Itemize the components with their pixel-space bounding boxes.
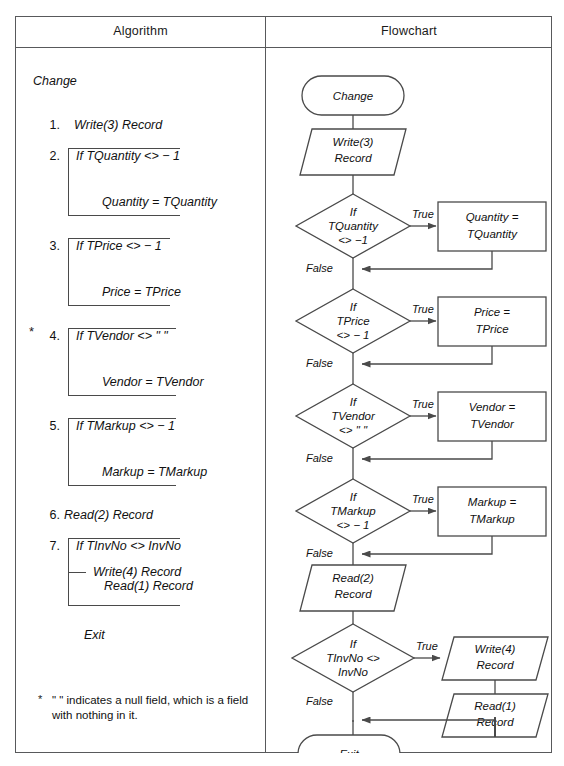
flow-node-process-quantity-line1: Quantity = bbox=[466, 211, 519, 223]
algorithm-step-2-number: 2. bbox=[42, 149, 60, 163]
algorithm-exit-label: Exit bbox=[84, 628, 105, 642]
footnote-line-1: " " indicates a null field, which is a f… bbox=[52, 694, 248, 706]
edge-label-false-markup: False bbox=[306, 547, 333, 559]
flow-node-process-quantity-line2: TQuantity bbox=[467, 228, 518, 240]
algorithm-step-1-text: Write(3) Record bbox=[74, 118, 162, 132]
algorithm-start-label: Change bbox=[33, 74, 77, 88]
flow-node-decision-quantity-line2: TQuantity bbox=[328, 220, 379, 232]
flow-node-decision-markup-line2: TMarkup bbox=[330, 505, 376, 517]
flow-node-process-price-line1: Price = bbox=[474, 306, 510, 318]
flow-node-decision-markup-line3: <> − 1 bbox=[337, 519, 370, 531]
edge-process-markup-merge bbox=[362, 536, 492, 554]
flow-node-decision-invno-line2: TInvNo <> bbox=[326, 652, 380, 664]
algorithm-step-7-number: 7. bbox=[42, 539, 60, 553]
algorithm-flowchart-table: Algorithm Flowchart Change 1. Write(3) R… bbox=[15, 16, 552, 753]
edge-label-true-markup: True bbox=[412, 493, 434, 505]
flow-node-process-markup-line2: TMarkup bbox=[469, 513, 515, 525]
algorithm-step-4-text: If TVendor <> " " bbox=[76, 329, 170, 343]
edge-process-quantity-merge bbox=[362, 251, 492, 269]
edge-label-false-quantity: False bbox=[306, 262, 333, 274]
algorithm-step-3-number: 3. bbox=[42, 239, 60, 253]
flow-node-decision-price: If TPrice <> − 1 bbox=[296, 289, 410, 353]
footnote-line-2: with nothing in it. bbox=[52, 709, 138, 721]
algorithm-step-4-number: 4. bbox=[42, 329, 60, 343]
algorithm-step-6-number: 6. bbox=[42, 508, 60, 522]
flow-node-write3-line1: Write(3) bbox=[333, 136, 374, 148]
algorithm-column: Change 1. Write(3) Record 2. If TQuantit… bbox=[16, 48, 265, 753]
flow-node-decision-invno-line3: InvNo bbox=[338, 666, 369, 678]
algorithm-step-4-body: Vendor = TVendor bbox=[102, 375, 204, 389]
footnote-star-icon: * bbox=[38, 693, 42, 705]
algorithm-step-2-body: Quantity = TQuantity bbox=[102, 195, 217, 209]
flow-node-read2-line1: Read(2) bbox=[332, 572, 374, 584]
algorithm-step-7-body: Write(4) Record bbox=[93, 565, 181, 579]
flow-node-write4: Write(4) Record bbox=[442, 637, 548, 680]
flow-node-decision-vendor-line2: TVendor bbox=[331, 410, 376, 422]
flow-node-start-label: Change bbox=[333, 90, 373, 102]
algorithm-step-6-text: Read(2) Record bbox=[64, 508, 153, 522]
algorithm-step-3-text: If TPrice <> − 1 bbox=[76, 239, 164, 253]
flow-node-write3-line2: Record bbox=[334, 152, 372, 164]
flow-node-process-vendor-line1: Vendor = bbox=[469, 401, 516, 413]
flow-node-start: Change bbox=[302, 76, 404, 115]
edge-process-vendor-merge bbox=[362, 441, 492, 459]
footnote-text: " " indicates a null field, which is a f… bbox=[52, 693, 248, 723]
algorithm-step-5-body: Markup = TMarkup bbox=[102, 465, 207, 479]
flow-node-decision-price-line3: <> − 1 bbox=[337, 329, 370, 341]
flow-node-write3: Write(3) Record bbox=[300, 129, 406, 175]
flow-node-end: Exit bbox=[298, 735, 400, 753]
column-header-flowchart: Flowchart bbox=[266, 24, 552, 38]
flowchart-column: Change Write(3) Record If TQuantity <> −… bbox=[266, 48, 552, 753]
flow-node-process-markup-line1: Markup = bbox=[468, 496, 517, 508]
algorithm-step-3-body: Price = TPrice bbox=[102, 285, 181, 299]
flow-node-process-markup: Markup = TMarkup bbox=[438, 487, 546, 536]
flow-node-process-quantity: Quantity = TQuantity bbox=[438, 202, 546, 251]
algorithm-step-5-number: 5. bbox=[42, 419, 60, 433]
algorithm-step-2-text: If TQuantity <> − 1 bbox=[76, 149, 182, 163]
flow-node-write4-line2: Record bbox=[476, 659, 514, 671]
flow-node-read2-line2: Record bbox=[334, 588, 372, 600]
edge-label-false-invno: False bbox=[306, 695, 333, 707]
column-header-algorithm: Algorithm bbox=[16, 24, 265, 38]
algorithm-step-7-text: If TInvNo <> InvNo bbox=[76, 539, 183, 553]
edge-label-true-quantity: True bbox=[412, 208, 434, 220]
flowchart-diagram: Change Write(3) Record If TQuantity <> −… bbox=[266, 48, 552, 753]
edge-label-false-vendor: False bbox=[306, 452, 333, 464]
flow-node-decision-markup: If TMarkup <> − 1 bbox=[296, 479, 410, 543]
edge-label-true-vendor: True bbox=[412, 398, 434, 410]
algorithm-step-1-number: 1. bbox=[42, 118, 60, 132]
flow-node-end-label: Exit bbox=[339, 748, 359, 753]
algorithm-step-7-inner-dash bbox=[68, 572, 86, 573]
flow-node-decision-quantity: If TQuantity <> −1 bbox=[296, 194, 410, 258]
flow-node-read1-line1: Read(1) bbox=[474, 700, 516, 712]
algorithm-step-7-body2: Read(1) Record bbox=[104, 579, 193, 593]
edge-label-true-price: True bbox=[412, 303, 434, 315]
flow-node-process-vendor: Vendor = TVendor bbox=[438, 392, 546, 441]
flow-node-read2: Read(2) Record bbox=[300, 565, 406, 611]
flow-node-process-price-line2: TPrice bbox=[475, 323, 508, 335]
algorithm-step-5-text: If TMarkup <> − 1 bbox=[76, 419, 177, 433]
flow-node-decision-quantity-line3: <> −1 bbox=[338, 234, 368, 246]
edge-label-true-invno: True bbox=[416, 640, 438, 652]
flow-node-write4-line1: Write(4) bbox=[475, 643, 516, 655]
flow-node-decision-invno: If TInvNo <> InvNo bbox=[292, 624, 414, 692]
flow-node-decision-price-line2: TPrice bbox=[336, 315, 369, 327]
flow-node-decision-vendor-line3: <> " " bbox=[339, 424, 368, 436]
flow-node-process-price: Price = TPrice bbox=[438, 297, 546, 346]
edge-label-false-price: False bbox=[306, 357, 333, 369]
flow-node-decision-vendor: If TVendor <> " " bbox=[296, 384, 410, 448]
flow-node-process-vendor-line2: TVendor bbox=[470, 418, 515, 430]
edge-process-price-merge bbox=[362, 346, 492, 364]
algorithm-step-4-star: * bbox=[29, 324, 34, 339]
